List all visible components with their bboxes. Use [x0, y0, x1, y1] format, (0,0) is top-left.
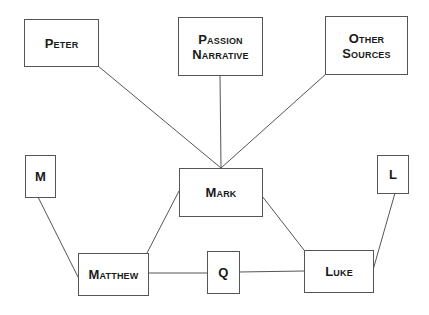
- node-q-label: Q: [218, 265, 228, 280]
- edge-m-matthew: [38, 197, 78, 277]
- node-m-label: M: [35, 169, 46, 184]
- node-matthew-label: Matthew: [88, 267, 138, 282]
- node-luke-label: Luke: [325, 264, 353, 279]
- node-mark-label: Mark: [205, 185, 236, 200]
- node-q: Q: [207, 251, 240, 294]
- edge-q-luke: [239, 271, 304, 272]
- node-mark: Mark: [179, 168, 263, 217]
- node-passion-label-line1: Passion: [198, 32, 243, 47]
- edge-mark-matthew: [147, 191, 179, 253]
- edge-peter-mark: [98, 66, 221, 168]
- node-peter: Peter: [24, 19, 99, 67]
- node-l-label: L: [389, 167, 397, 182]
- edge-other-mark: [221, 74, 326, 168]
- node-other-sources: Other Sources: [325, 16, 408, 75]
- node-m: M: [25, 155, 56, 198]
- diagram-canvas: Peter Passion Narrative Other Sources M …: [0, 0, 429, 315]
- node-luke: Luke: [304, 250, 374, 293]
- node-l: L: [377, 155, 409, 194]
- edge-passion-mark: [220, 75, 221, 168]
- node-other-label-line2: Sources: [342, 46, 391, 61]
- node-peter-label: Peter: [45, 36, 79, 51]
- node-matthew: Matthew: [78, 253, 149, 296]
- edge-mark-luke: [262, 196, 304, 250]
- node-other-label-line1: Other: [349, 31, 385, 46]
- node-passion-label-line2: Narrative: [192, 47, 249, 62]
- node-passion-narrative: Passion Narrative: [178, 17, 263, 76]
- edge-l-luke: [373, 193, 395, 270]
